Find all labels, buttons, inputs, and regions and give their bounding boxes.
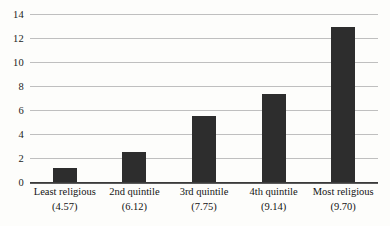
- category-score: (9.14): [239, 199, 309, 214]
- bar-slot: [308, 14, 378, 182]
- bar-slot: [30, 14, 100, 182]
- x-axis-line: [30, 182, 378, 183]
- x-axis-category-label: 4th quintile(9.14): [239, 184, 309, 214]
- bar-slot: [100, 14, 170, 182]
- y-axis-tick-label: 0: [19, 177, 24, 188]
- category-score: (7.75): [169, 199, 239, 214]
- y-axis-tick-label: 4: [19, 129, 24, 140]
- bar[interactable]: [192, 116, 216, 182]
- bar[interactable]: [331, 27, 355, 182]
- bar[interactable]: [53, 168, 77, 182]
- y-axis-tick-label: 6: [19, 105, 24, 116]
- y-axis-tick-label: 2: [19, 153, 24, 164]
- x-axis-category-label: 2nd quintile(6.12): [100, 184, 170, 214]
- x-axis-category-label: 3rd quintile(7.75): [169, 184, 239, 214]
- x-axis-category-label: Least religious(4.57): [30, 184, 100, 214]
- y-axis-tick-label: 8: [19, 81, 24, 92]
- x-axis-category-label: Most religious(9.70): [308, 184, 378, 214]
- bars-layer: [30, 14, 378, 182]
- category-name: Most religious: [308, 184, 378, 199]
- category-name: 3rd quintile: [169, 184, 239, 199]
- category-name: Least religious: [30, 184, 100, 199]
- bar-slot: [169, 14, 239, 182]
- category-score: (9.70): [308, 199, 378, 214]
- bar[interactable]: [262, 94, 286, 182]
- category-name: 2nd quintile: [100, 184, 170, 199]
- category-name: 4th quintile: [239, 184, 309, 199]
- bar[interactable]: [122, 152, 146, 182]
- y-axis-tick-label: 14: [13, 9, 24, 20]
- y-axis-tick-label: 10: [13, 57, 24, 68]
- x-axis-labels: Least religious(4.57)2nd quintile(6.12)3…: [30, 184, 378, 224]
- bar-slot: [239, 14, 309, 182]
- y-axis-tick-label: 12: [13, 33, 24, 44]
- bar-chart: 02468101214 Least religious(4.57)2nd qui…: [0, 0, 390, 226]
- category-score: (6.12): [100, 199, 170, 214]
- category-score: (4.57): [30, 199, 100, 214]
